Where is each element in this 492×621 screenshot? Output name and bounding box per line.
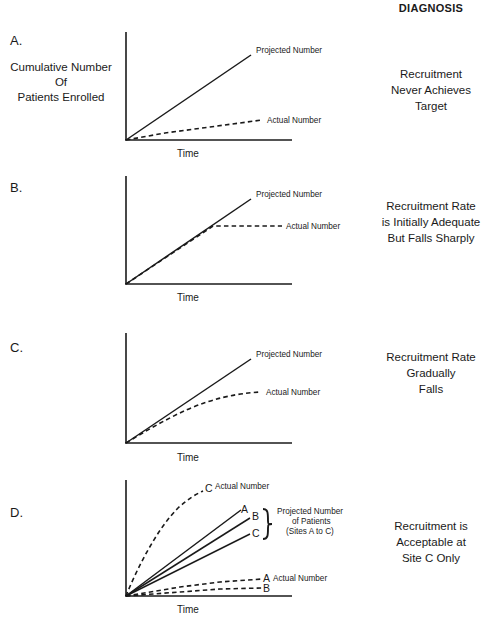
panel-d-diagnosis-line-1: Recruitment is xyxy=(370,518,492,534)
panel-d-marker-a: A xyxy=(241,503,248,515)
panel-c-projected-label: Projected Number xyxy=(256,350,322,359)
y-axis-label-line-3: Patients Enrolled xyxy=(2,90,120,105)
panel-d-actual-b-line xyxy=(126,588,262,596)
panel-a-actual-label: Actual Number xyxy=(267,116,321,125)
panel-letter-b: B. xyxy=(10,180,50,195)
panel-c-actual-curve xyxy=(126,392,260,443)
panel-a-diagnosis-line-2: Never Achieves xyxy=(370,82,492,98)
panel-b-diagnosis: Recruitment Rate is Initially Adequate B… xyxy=(370,198,492,246)
panel-d-projected-b-line xyxy=(126,518,250,596)
panel-d-marker-b-actual: B xyxy=(263,582,270,594)
y-axis-label-line-1: Cumulative Number xyxy=(2,60,120,75)
panel-c-diagnosis-line-1: Recruitment Rate xyxy=(370,349,492,365)
panel-d-diagnosis: Recruitment is Acceptable at Site C Only xyxy=(370,518,492,566)
diagnosis-column-header: DIAGNOSIS xyxy=(372,2,490,14)
panel-d-chart: C Actual Number A B C Projected Number o… xyxy=(110,468,380,621)
panel-c-projected-line xyxy=(126,359,251,443)
panel-letter-d: D. xyxy=(10,505,50,520)
panel-d-projected-a-line xyxy=(126,510,241,596)
panel-d-marker-b: B xyxy=(252,510,259,522)
panel-d-brace-label-line-1: Projected Number xyxy=(277,507,343,516)
panel-c-chart: Projected Number Actual Number Time xyxy=(110,325,380,470)
panel-b-diagnosis-line-3: But Falls Sharply xyxy=(370,230,492,246)
panel-d-actual-c-curve xyxy=(126,491,203,596)
panel-d-actual-c-label: Actual Number xyxy=(215,482,269,491)
panel-a-x-axis-label: Time xyxy=(177,148,199,159)
panel-a-diagnosis-line-1: Recruitment xyxy=(370,66,492,82)
panel-c-diagnosis-line-3: Falls xyxy=(370,381,492,397)
panel-d-diagnosis-line-2: Acceptable at xyxy=(370,534,492,550)
panel-d-brace-label-line-2: of Patients xyxy=(292,517,331,526)
panel-b-actual-label: Actual Number xyxy=(286,222,340,231)
panel-b-diagnosis-line-2: is Initially Adequate xyxy=(370,214,492,230)
panel-a-diagnosis-line-3: Target xyxy=(370,98,492,114)
panel-d-marker-c-top: C xyxy=(205,482,213,494)
panel-a-chart: Projected Number Actual Number Time xyxy=(110,20,380,170)
panel-d-brace-icon xyxy=(263,509,272,539)
panel-a-projected-line xyxy=(126,55,251,140)
panel-b-projected-line xyxy=(126,199,251,284)
panel-letter-c: C. xyxy=(10,340,50,355)
recruitment-figure: DIAGNOSIS A. Cumulative Number Of Patien… xyxy=(0,0,492,621)
panel-b-chart: Projected Number Actual Number Time xyxy=(110,168,380,308)
panel-d-marker-c: C xyxy=(252,527,260,539)
panel-d-diagnosis-line-3: Site C Only xyxy=(370,550,492,566)
panel-d-x-axis-label: Time xyxy=(177,604,199,615)
panel-d-actual-a-label: Actual Number xyxy=(273,574,327,583)
panel-c-diagnosis-line-2: Gradually xyxy=(370,365,492,381)
panel-a-projected-label: Projected Number xyxy=(256,46,322,55)
panel-b-projected-label: Projected Number xyxy=(256,190,322,199)
y-axis-label: Cumulative Number Of Patients Enrolled xyxy=(2,60,120,105)
panel-d-brace-label-line-3: (Sites A to C) xyxy=(286,527,334,536)
panel-c-actual-label: Actual Number xyxy=(266,388,320,397)
panel-b-actual-line xyxy=(126,226,282,284)
panel-b-diagnosis-line-1: Recruitment Rate xyxy=(370,198,492,214)
panel-a-actual-line xyxy=(126,120,262,140)
panel-b-x-axis-label: Time xyxy=(177,292,199,303)
panel-c-x-axis-label: Time xyxy=(177,452,199,463)
panel-a-diagnosis: Recruitment Never Achieves Target xyxy=(370,66,492,114)
y-axis-label-line-2: Of xyxy=(2,75,120,90)
panel-letter-a: A. xyxy=(10,33,50,48)
panel-c-diagnosis: Recruitment Rate Gradually Falls xyxy=(370,349,492,397)
